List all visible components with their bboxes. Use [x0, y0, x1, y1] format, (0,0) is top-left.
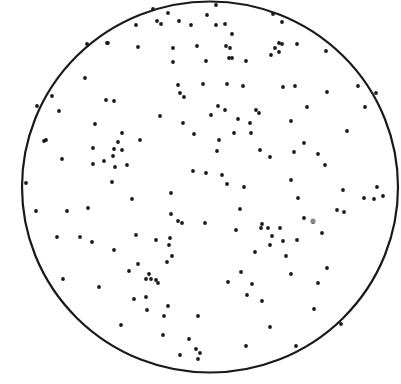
dot — [302, 141, 306, 145]
dot — [90, 240, 94, 244]
dot — [149, 277, 153, 281]
dot — [268, 243, 272, 247]
dot — [260, 299, 264, 303]
dot — [223, 108, 227, 112]
dot — [320, 231, 324, 235]
dot — [228, 46, 232, 50]
dot — [238, 207, 242, 211]
dot — [205, 13, 209, 17]
dot — [169, 191, 173, 195]
dot — [226, 280, 230, 284]
dot — [245, 293, 249, 297]
dot — [253, 250, 257, 254]
dot — [65, 209, 69, 213]
dot — [112, 147, 116, 151]
dot — [214, 23, 218, 27]
dot — [35, 104, 39, 108]
dot — [178, 353, 182, 357]
dot — [215, 149, 219, 153]
dot — [176, 83, 180, 87]
dot — [289, 119, 293, 123]
dot — [241, 84, 245, 88]
dot — [316, 152, 320, 156]
dot — [93, 122, 97, 126]
dot — [225, 182, 229, 186]
dot — [159, 22, 163, 26]
dot — [325, 90, 329, 94]
dot — [110, 180, 114, 184]
dot — [180, 221, 184, 225]
dot — [223, 22, 227, 26]
dot — [325, 266, 329, 270]
dot — [257, 111, 261, 115]
dot — [130, 197, 134, 201]
dot — [136, 45, 140, 49]
dot — [91, 162, 95, 166]
dot — [169, 212, 173, 216]
dot — [259, 226, 263, 230]
dot — [381, 194, 385, 198]
dot — [217, 138, 221, 142]
dot — [112, 248, 116, 252]
dot — [116, 140, 120, 144]
dot — [209, 113, 213, 117]
dot — [112, 99, 116, 103]
dot — [239, 270, 243, 274]
dot — [292, 150, 296, 154]
dot — [187, 337, 191, 341]
dot — [168, 236, 172, 240]
dot — [268, 155, 272, 159]
dot — [97, 285, 101, 289]
dot — [24, 181, 28, 185]
dot — [78, 235, 82, 239]
dot — [277, 50, 281, 54]
dot — [324, 49, 328, 53]
dot — [178, 91, 182, 95]
dot — [196, 314, 200, 318]
dot — [145, 308, 149, 312]
dot — [181, 121, 185, 125]
dot — [144, 277, 148, 281]
dot — [158, 114, 162, 118]
dot — [198, 351, 202, 355]
dot — [281, 239, 285, 243]
dot — [305, 105, 309, 109]
dot — [280, 42, 284, 46]
dot — [214, 3, 218, 7]
dot — [127, 269, 131, 273]
dot — [232, 131, 236, 135]
dot — [234, 228, 238, 232]
dot — [295, 42, 299, 46]
dot — [85, 42, 89, 46]
dot — [134, 23, 138, 27]
dot — [105, 41, 109, 45]
dot — [281, 85, 285, 89]
dot — [192, 132, 196, 136]
faint-dot — [310, 218, 315, 223]
dot — [339, 322, 343, 326]
dot — [374, 91, 378, 95]
dot-field-diagram — [0, 0, 401, 384]
dot — [293, 84, 297, 88]
dot — [295, 238, 299, 242]
dot — [216, 104, 220, 108]
dot — [195, 44, 199, 48]
dot — [191, 169, 195, 173]
dot — [204, 59, 208, 63]
background — [0, 0, 401, 384]
dot — [271, 12, 275, 16]
dot — [147, 272, 151, 276]
dot — [120, 148, 124, 152]
dot — [254, 108, 258, 112]
dot — [278, 226, 282, 230]
dot — [154, 238, 158, 242]
dot — [138, 138, 142, 142]
dot — [194, 347, 198, 351]
dot — [266, 226, 270, 230]
dot — [176, 219, 180, 223]
dot — [182, 95, 186, 99]
dot — [362, 196, 366, 200]
dot — [204, 171, 208, 175]
dot — [244, 344, 248, 348]
dot — [341, 188, 345, 192]
